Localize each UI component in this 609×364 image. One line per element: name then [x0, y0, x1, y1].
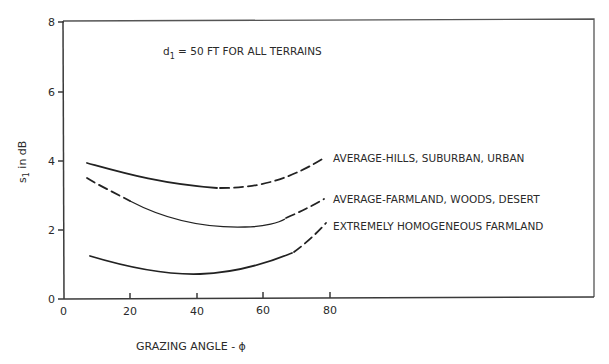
chart-annotation: d1 = 50 FT FOR ALL TERRAINS: [163, 45, 322, 61]
series-label: AVERAGE-HILLS, SUBURBAN, URBAN: [333, 152, 524, 164]
x-axis-label: GRAZING ANGLE - ϕ: [136, 340, 246, 353]
y-tick-label: 6: [48, 86, 55, 99]
x-axis: [64, 297, 594, 299]
curve-solid-segment: [87, 163, 217, 188]
y-axis-label: s1 in dB: [16, 141, 31, 183]
x-tick-label: 20: [123, 305, 137, 318]
y-axis: [63, 21, 64, 299]
svg-text:s1 in dB: s1 in dB: [16, 141, 31, 183]
series-homogeneous-farmland: EXTREMELY HOMOGENEOUS FARMLAND: [90, 220, 543, 274]
curve-dashed-segment: [294, 223, 326, 252]
curve-dashed-segment: [87, 178, 130, 201]
series-label: AVERAGE-FARMLAND, WOODS, DESERT: [333, 193, 540, 205]
x-tick-label: 60: [256, 304, 270, 317]
x-tick-label: 80: [323, 304, 337, 317]
curve-solid-segment: [130, 201, 285, 227]
x-ticks: 0 20 40 60 80: [60, 292, 337, 318]
chart-figure: 8 6 4 2 0 0 20 40 60 80 GRAZING ANGLE - …: [0, 0, 609, 364]
y-tick-label: 2: [48, 224, 55, 237]
y-ticks: 8 6 4 2 0: [48, 16, 64, 306]
curve-solid-segment: [90, 253, 292, 274]
series-hills-suburban-urban: AVERAGE-HILLS, SUBURBAN, URBAN: [87, 152, 524, 188]
curve-dashed-segment: [286, 199, 324, 218]
y-tick-label: 8: [48, 16, 55, 29]
y-tick-label: 4: [48, 155, 55, 168]
y-tick-label: 0: [48, 293, 55, 306]
curve-dashed-segment: [220, 158, 324, 188]
x-tick-label: 40: [190, 305, 204, 318]
series-label: EXTREMELY HOMOGENEOUS FARMLAND: [333, 220, 543, 232]
x-tick-label: 0: [60, 305, 67, 318]
